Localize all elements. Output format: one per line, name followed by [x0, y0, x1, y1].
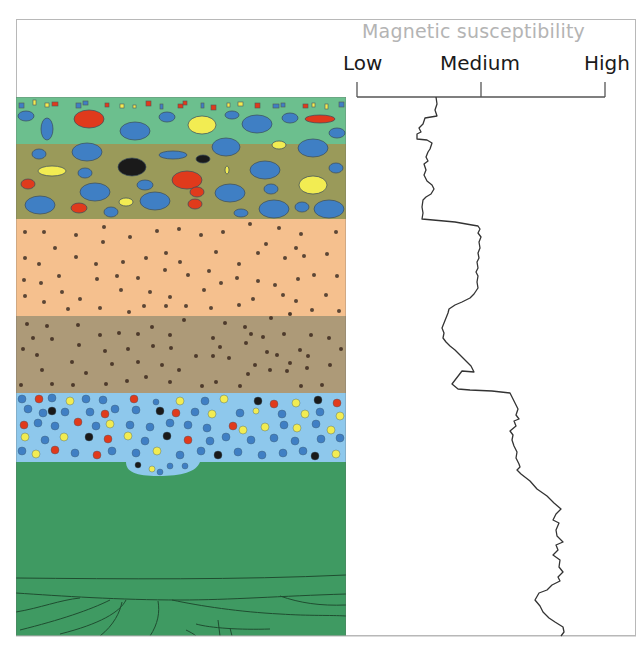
layer-green-bedrock — [16, 462, 346, 636]
layer-taupe-silt — [16, 316, 346, 393]
susceptibility-curve — [417, 97, 564, 636]
axis-scale — [357, 82, 605, 97]
stratigraphy-diagram — [0, 0, 644, 652]
stratigraphic-column — [16, 97, 346, 636]
